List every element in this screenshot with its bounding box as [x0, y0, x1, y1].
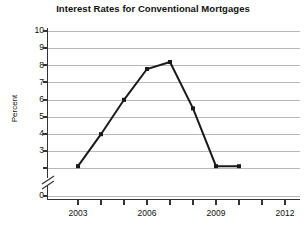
data-point-2009: [214, 164, 218, 168]
data-point-2008: [191, 106, 195, 110]
plot-area: [0, 0, 306, 241]
gridlines: [47, 31, 300, 196]
x-tick-marks: [78, 200, 285, 205]
data-point-2010: [237, 164, 241, 168]
data-markers: [76, 60, 241, 168]
chart-container: Interest Rates for Conventional Mortgage…: [0, 0, 306, 241]
data-point-2005: [122, 98, 126, 102]
y-tick-marks: [43, 31, 47, 196]
data-point-2007: [168, 60, 172, 64]
data-point-2004: [99, 132, 103, 136]
data-point-2003: [76, 164, 80, 168]
data-point-2006: [145, 67, 149, 71]
